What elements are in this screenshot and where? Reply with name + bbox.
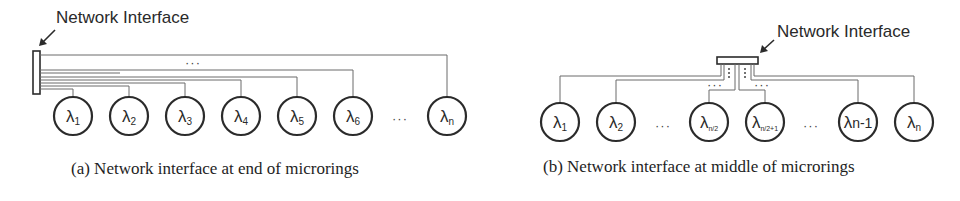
ring-label-n: λn bbox=[440, 107, 454, 127]
ring-label-n-half-plus-1: λn/2+1 bbox=[752, 113, 778, 133]
waveguide-wires bbox=[40, 55, 447, 96]
network-interface-label: Network Interface bbox=[777, 22, 910, 42]
ring-label-1: λ1 bbox=[553, 113, 567, 133]
ring-label-6: λ6 bbox=[346, 107, 360, 127]
ring-label-4: λ4 bbox=[234, 107, 248, 127]
arrow-icon bbox=[760, 40, 774, 53]
ring-label-n: λn bbox=[907, 113, 921, 133]
waveguide-wires bbox=[560, 64, 914, 102]
ring-label-2: λ2 bbox=[122, 107, 136, 127]
ring-label-1: λ1 bbox=[66, 107, 80, 127]
panel-b-middle-interface: Network Interface ··· ··· λ1 λ2 ··· λn/2… bbox=[480, 0, 960, 201]
ring-label-n-minus-1: λn-1 bbox=[844, 113, 873, 133]
network-interface-block bbox=[33, 51, 40, 94]
ring-ellipsis-left: ··· bbox=[655, 118, 671, 133]
ring-label-n-half: λn/2 bbox=[700, 113, 718, 133]
panel-a-end-interface: Network Interface ··· λ1 λ2 λ3 λ4 λ5 λ6 … bbox=[0, 0, 480, 201]
ring-ellipsis: ··· bbox=[392, 111, 408, 126]
ring-label-3: λ3 bbox=[178, 107, 192, 127]
vertical-ellipsis bbox=[728, 68, 746, 78]
caption-a: (a) Network interface at end of microrin… bbox=[71, 159, 359, 179]
network-interface-label: Network Interface bbox=[56, 8, 189, 28]
wire-ellipsis-left: ··· bbox=[707, 77, 723, 92]
wire-ellipsis-right: ··· bbox=[754, 77, 770, 92]
wire-ellipsis: ··· bbox=[185, 55, 201, 70]
ring-label-5: λ5 bbox=[290, 107, 304, 127]
ring-label-2: λ2 bbox=[609, 113, 623, 133]
network-interface-block bbox=[717, 57, 758, 64]
microrings bbox=[541, 103, 933, 141]
caption-b: (b) Network interface at middle of micro… bbox=[543, 157, 855, 177]
arrow-icon bbox=[39, 30, 55, 46]
ring-ellipsis-right: ··· bbox=[803, 118, 819, 133]
